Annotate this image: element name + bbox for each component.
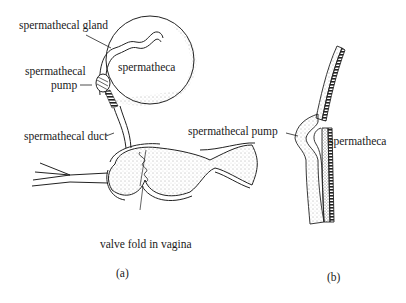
caption-b: (b) — [327, 272, 340, 284]
label-spermathecal-gland: spermathecal gland — [19, 20, 108, 32]
label-spermatheca-a: spermatheca — [118, 62, 175, 74]
label-spermathecal-pump-b: spermathecal pump — [188, 126, 278, 138]
label-spermatheca-b: spermatheca — [329, 136, 386, 148]
label-spermathecal-pump-line1: spermathecal — [25, 66, 86, 78]
label-spermathecal-pump-line2: pump — [51, 80, 77, 92]
label-spermathecal-duct: spermathecal duct — [24, 131, 107, 143]
diagram-canvas: spermathecal gland spermatheca spermathe… — [0, 0, 406, 303]
label-valve-fold: valve fold in vagina — [100, 239, 192, 251]
figure-a-drawing — [32, 16, 257, 210]
anatomy-illustration — [0, 0, 406, 303]
caption-a: (a) — [116, 268, 129, 280]
